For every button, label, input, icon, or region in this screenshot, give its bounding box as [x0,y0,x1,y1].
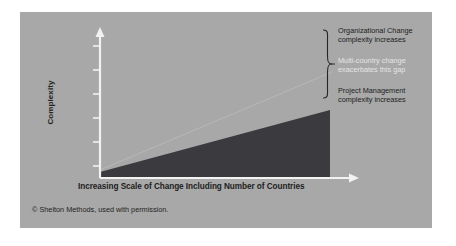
annotation-multi-country-gap: Multi-country change exacerbates this ga… [338,56,432,74]
y-axis-arrowhead [96,27,105,37]
y-axis-title: Complexity [46,51,55,155]
annotation-line-1: Organizational Change [338,26,432,35]
annotation-project-management: Project Management complexity increases [338,86,432,104]
credit-line: © Shelton Methods, used with permission. [32,205,168,214]
annotation-line-1: Project Management [338,86,432,95]
figure-root: Complexity Increasing Scale of Change In… [0,0,456,246]
project-management-area [100,110,330,178]
annotation-organizational-change: Organizational Change complexity increas… [338,26,432,44]
annotation-line-2: exacerbates this gap [338,65,432,74]
annotation-line-2: complexity increases [338,35,432,44]
x-axis-title: Increasing Scale of Change Including Num… [78,182,304,191]
diagram-panel: Complexity Increasing Scale of Change In… [20,12,432,228]
annotation-brace [324,30,335,98]
x-axis-arrowhead [349,174,359,183]
annotation-line-1: Multi-country change [338,56,432,65]
annotation-line-2: complexity increases [338,95,432,104]
